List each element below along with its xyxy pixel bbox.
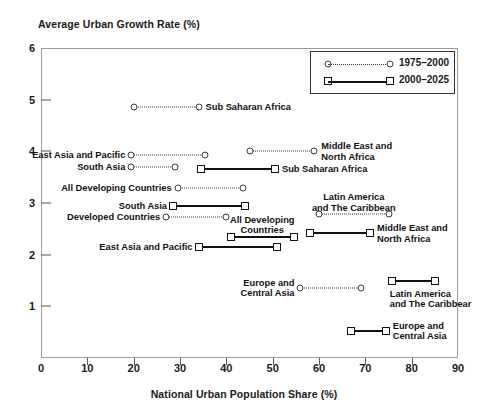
data-point-label: All Developing Countries	[230, 215, 295, 235]
data-point-label: Developed Countries	[67, 212, 160, 222]
data-point-label: Latin America and The Caribbean	[312, 192, 396, 212]
data-point-marker	[297, 284, 304, 291]
data-point-marker	[172, 163, 179, 170]
data-point-marker	[130, 104, 137, 111]
data-point-marker	[382, 327, 390, 335]
data-point-marker	[174, 184, 181, 191]
series-segment-line	[310, 232, 370, 234]
x-tick-mark	[87, 358, 88, 365]
series-segment-line	[199, 246, 278, 248]
data-point-marker	[273, 243, 281, 251]
data-point-marker	[388, 277, 396, 285]
legend-label-1975-2000: 1975–2000	[399, 57, 449, 68]
series-segment-line	[319, 214, 389, 215]
x-tick-mark	[273, 358, 274, 365]
series-segment-line	[173, 205, 245, 207]
x-tick-mark	[226, 358, 227, 365]
series-segment-line	[131, 154, 205, 155]
series-segment-line	[131, 166, 175, 167]
legend-marker-circle-end	[387, 61, 394, 68]
x-tick-mark	[365, 358, 366, 365]
chart-legend: 1975–2000 2000–2025	[310, 51, 455, 94]
legend-item-2000-2025: 2000–2025	[319, 74, 451, 88]
data-point-marker	[169, 202, 177, 210]
data-point-marker	[271, 165, 279, 173]
data-point-marker	[306, 229, 314, 237]
legend-item-1975-2000: 1975–2000	[319, 57, 451, 71]
x-tick-mark	[180, 358, 181, 365]
x-tick-label: 0	[28, 362, 54, 374]
data-point-marker	[197, 165, 205, 173]
y-tick-label: 3	[13, 197, 35, 209]
y-axis-title: Average Urban Growth Rate (%)	[38, 18, 200, 30]
x-tick-label: 90	[445, 362, 471, 374]
data-point-marker	[202, 151, 209, 158]
data-point-marker	[431, 277, 439, 285]
data-point-label: East Asia and Pacific	[99, 242, 192, 252]
data-point-label: Latin America and The Caribbear	[390, 289, 472, 309]
y-tick-mark	[41, 99, 51, 100]
data-point-marker	[163, 214, 170, 221]
data-point-marker	[347, 327, 355, 335]
urban-growth-scatter-chart: Average Urban Growth Rate (%) 1234560102…	[0, 0, 488, 412]
data-point-marker	[128, 163, 135, 170]
x-tick-mark	[412, 358, 413, 365]
series-segment-line	[250, 151, 315, 152]
series-segment-line	[351, 330, 385, 332]
data-point-label: East Asia and Pacific	[32, 150, 125, 160]
y-tick-label: 5	[13, 94, 35, 106]
data-point-marker	[241, 202, 249, 210]
y-tick-label: 1	[13, 300, 35, 312]
legend-label-2000-2025: 2000–2025	[399, 74, 449, 85]
series-segment-line	[392, 280, 435, 282]
data-point-label: South Asia	[77, 162, 125, 172]
data-point-marker	[366, 229, 374, 237]
data-point-marker	[195, 243, 203, 251]
data-point-label: South Asia	[119, 201, 167, 211]
data-point-marker	[239, 184, 246, 191]
series-segment-line	[166, 217, 226, 218]
y-tick-label: 6	[13, 42, 35, 54]
data-point-marker	[195, 104, 202, 111]
data-point-label: Sub Saharan Africa	[282, 164, 367, 174]
x-axis-title: National Urban Population Share (%)	[0, 388, 488, 400]
data-point-marker	[246, 148, 253, 155]
data-point-label: Middle East and North Africa	[321, 141, 392, 161]
series-segment-line	[231, 236, 294, 238]
series-segment-line	[134, 107, 199, 108]
legend-line-dotted	[328, 64, 390, 65]
data-point-label: Europe and Central Asia	[393, 320, 447, 340]
data-point-marker	[128, 151, 135, 158]
y-tick-mark	[41, 254, 51, 255]
legend-line-solid	[328, 81, 390, 83]
y-tick-mark	[41, 203, 51, 204]
data-point-label: Sub Saharan Africa	[206, 102, 291, 112]
y-tick-label: 2	[13, 249, 35, 261]
series-segment-line	[300, 287, 360, 288]
legend-marker-square-end	[386, 77, 394, 85]
x-tick-mark	[134, 358, 135, 365]
series-segment-line	[201, 168, 275, 170]
data-point-label: Middle East and North Africa	[377, 223, 448, 243]
data-point-marker	[311, 148, 318, 155]
series-segment-line	[178, 187, 243, 188]
x-tick-mark	[319, 358, 320, 365]
y-tick-mark	[41, 306, 51, 307]
data-point-label: All Developing Countries	[61, 182, 172, 192]
data-point-marker	[223, 214, 230, 221]
data-point-label: Europe and Central Asia	[241, 278, 295, 298]
data-point-marker	[357, 284, 364, 291]
